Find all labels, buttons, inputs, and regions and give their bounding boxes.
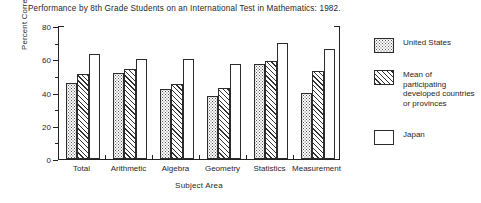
x-tick-label: Geometry — [205, 164, 240, 173]
legend-label: Mean of participating developed countrie… — [403, 70, 475, 108]
y-tick-major — [53, 127, 58, 128]
bar — [265, 61, 277, 159]
chart-title: Performance by 8th Grade Students on an … — [28, 4, 341, 13]
bar — [160, 89, 172, 159]
x-group-tick — [152, 155, 153, 159]
bar — [312, 71, 324, 159]
bar-group — [160, 26, 195, 159]
bar — [66, 83, 78, 159]
y-tick-major — [53, 60, 58, 61]
legend-swatch — [374, 70, 394, 85]
bar — [136, 59, 148, 159]
plot-area: 020406080 — [58, 26, 340, 160]
y-tick-major — [53, 94, 58, 95]
bar — [89, 54, 101, 159]
bar — [277, 43, 289, 159]
x-group-tick — [105, 155, 106, 159]
top-axis-cap-left — [58, 26, 64, 27]
y-tick-minor — [55, 143, 58, 144]
bar — [77, 74, 89, 159]
y-tick-minor — [55, 44, 58, 45]
y-tick-label: 40 — [42, 89, 51, 98]
legend-label: Japan — [403, 130, 425, 140]
bar-group — [113, 26, 148, 159]
legend-entry: United States — [374, 38, 451, 53]
legend-label: United States — [403, 38, 451, 48]
right-axis-line — [339, 26, 340, 160]
legend-entry: Japan — [374, 130, 425, 145]
bar-group — [66, 26, 101, 159]
bar — [230, 64, 242, 159]
y-tick-label: 0 — [47, 156, 51, 165]
bar — [113, 73, 125, 159]
x-axis-line — [58, 159, 340, 160]
y-axis-title: Percent Correct — [20, 0, 29, 50]
x-axis-title: Subject Area — [175, 181, 223, 190]
legend-swatch — [374, 130, 394, 145]
x-tick-label: Total — [73, 164, 90, 173]
legend-swatch — [374, 38, 394, 53]
chart-figure: Performance by 8th Grade Students on an … — [0, 0, 481, 203]
x-group-tick — [199, 155, 200, 159]
y-tick-label: 60 — [42, 56, 51, 65]
bar — [218, 88, 230, 159]
bar — [171, 84, 183, 159]
y-tick-major — [53, 27, 58, 28]
x-tick-label: Algebra — [162, 164, 190, 173]
y-tick-minor — [55, 110, 58, 111]
x-tick-label: Statistics — [253, 164, 285, 173]
bar-group — [254, 26, 289, 159]
bar — [301, 93, 313, 160]
x-group-tick — [293, 155, 294, 159]
y-axis-line — [58, 26, 59, 160]
x-tick-label: Measurement — [292, 164, 341, 173]
y-tick-label: 80 — [42, 23, 51, 32]
bar — [324, 49, 336, 159]
legend-entry: Mean of participating developed countrie… — [374, 70, 475, 108]
bar-group — [301, 26, 336, 159]
bar — [183, 59, 195, 159]
bar-group — [207, 26, 242, 159]
bar — [124, 69, 136, 159]
y-tick-minor — [55, 77, 58, 78]
bar — [254, 64, 266, 159]
x-group-tick — [246, 155, 247, 159]
bar — [207, 96, 219, 159]
y-tick-major — [53, 160, 58, 161]
y-tick-label: 20 — [42, 122, 51, 131]
x-tick-label: Arithmetic — [111, 164, 147, 173]
